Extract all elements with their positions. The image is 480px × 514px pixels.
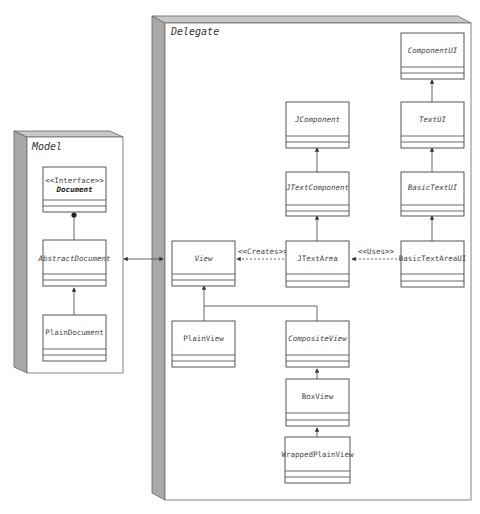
class-text-ui[interactable]: TextUI bbox=[401, 102, 464, 148]
jtext-area-name: JTextArea bbox=[297, 254, 338, 263]
class-abstract-document[interactable]: AbstractDocument bbox=[37, 240, 111, 286]
basic-text-area-ui-name: BasicTextAreaUI bbox=[399, 254, 467, 263]
component-ui-name: ComponentUI bbox=[408, 46, 458, 55]
delegate-package-label: Delegate bbox=[170, 26, 219, 37]
class-component-ui[interactable]: ComponentUI bbox=[401, 33, 464, 79]
jtext-component-name: JTextComponent bbox=[285, 183, 350, 192]
box-view-name: BoxView bbox=[302, 392, 334, 401]
class-wrapped-plain-view[interactable]: WrappedPlainView bbox=[281, 437, 354, 483]
basic-text-ui-name: BasicTextUI bbox=[408, 183, 458, 192]
class-box-view[interactable]: BoxView bbox=[286, 379, 349, 426]
composition-dot-icon bbox=[71, 212, 76, 217]
class-document[interactable]: <<Interface>> Document bbox=[43, 167, 106, 212]
document-stereotype: <<Interface>> bbox=[45, 176, 104, 185]
view-name: View bbox=[194, 254, 213, 263]
plain-view-name: PlainView bbox=[183, 334, 224, 343]
class-basic-text-area-ui[interactable]: BasicTextAreaUI bbox=[399, 241, 467, 287]
document-name: Document bbox=[55, 185, 93, 194]
jcomponent-name: JComponent bbox=[294, 115, 341, 124]
class-jtext-area[interactable]: JTextArea bbox=[286, 241, 349, 287]
class-plain-document[interactable]: PlainDocument bbox=[43, 315, 106, 361]
abstract-document-name: AbstractDocument bbox=[37, 254, 111, 263]
class-composite-view[interactable]: CompositeView bbox=[286, 321, 349, 367]
creates-label: <<Creates>> bbox=[238, 247, 288, 256]
class-jtext-component[interactable]: JTextComponent bbox=[285, 172, 350, 216]
uses-label: <<Uses>> bbox=[358, 247, 395, 256]
text-ui-name: TextUI bbox=[419, 115, 447, 124]
class-view[interactable]: View bbox=[172, 241, 235, 286]
class-plain-view[interactable]: PlainView bbox=[172, 321, 235, 367]
class-basic-text-ui[interactable]: BasicTextUI bbox=[401, 172, 464, 216]
class-jcomponent[interactable]: JComponent bbox=[286, 102, 349, 148]
plain-document-name: PlainDocument bbox=[45, 328, 104, 337]
wrapped-plain-view-name: WrappedPlainView bbox=[281, 450, 354, 459]
uml-class-diagram: Model Delegate View (dashed) --> JTextAr… bbox=[0, 0, 480, 514]
model-package-label: Model bbox=[31, 141, 62, 152]
composite-view-name: CompositeView bbox=[288, 334, 347, 343]
